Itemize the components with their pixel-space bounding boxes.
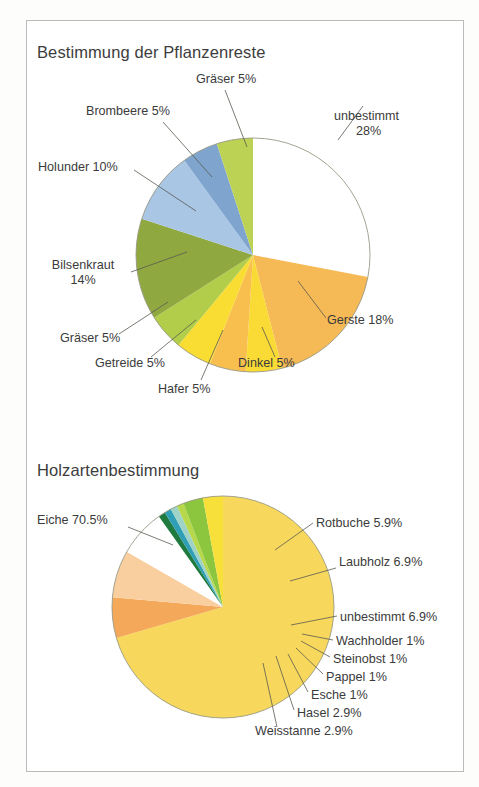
pie1-label-bilsenkraut-name: Bilsenkraut: [52, 258, 114, 272]
pie2-label-eiche: Eiche 70.5%: [37, 513, 108, 527]
pie-chart-pflanzenreste: [136, 138, 370, 372]
pie-slice: [253, 138, 370, 277]
pie1-label-dinkel: Dinkel 5%: [238, 356, 295, 370]
pie2-label-unbestimmt: unbestimmt 6.9%: [340, 610, 437, 624]
pie1-label-getreide: Getreide 5%: [95, 356, 165, 370]
pie2-label-weisstanne: Weisstanne 2.9%: [255, 724, 353, 738]
pie2-label-steinobst: Steinobst 1%: [333, 652, 407, 666]
pie2-label-esche: Esche 1%: [311, 688, 368, 702]
pie1-label-hafer: Hafer 5%: [158, 382, 211, 396]
pie1-label-brombeere: Brombeere 5%: [86, 104, 170, 118]
pie1-label-holunder: Holunder 10%: [38, 160, 118, 174]
leader-line: [225, 90, 247, 147]
pie2-label-laubholz: Laubholz 6.9%: [339, 555, 422, 569]
pie1-label-bilsenkraut-value: 14%: [70, 273, 95, 287]
pie1-label-graeser-top: Gräser 5%: [171, 72, 281, 86]
charts-svg-layer: [0, 0, 479, 787]
pie-chart-holzarten: [112, 496, 334, 718]
pie2-label-pappel: Pappel 1%: [326, 670, 387, 684]
pie1-label-gerste: Gerste 18%: [327, 313, 394, 327]
page-canvas: Bestimmung der Pflanzenreste Holzartenbe…: [0, 0, 479, 787]
pie1-label-bilsenkraut: Bilsenkraut 14%: [33, 258, 133, 288]
pie1-label-unbestimmt-value: 28%: [356, 124, 381, 139]
pie1-label-graeser-bottom: Gräser 5%: [60, 331, 120, 345]
pie2-label-rotbuche: Rotbuche 5.9%: [316, 516, 402, 530]
pie1-label-unbestimmt-name: unbestimmt: [334, 109, 399, 123]
pie2-label-hasel: Hasel 2.9%: [297, 706, 361, 720]
pie1-label-unbestimmt: unbestimmt 28%: [334, 109, 399, 139]
pie2-label-wachholder: Wachholder 1%: [336, 634, 424, 648]
